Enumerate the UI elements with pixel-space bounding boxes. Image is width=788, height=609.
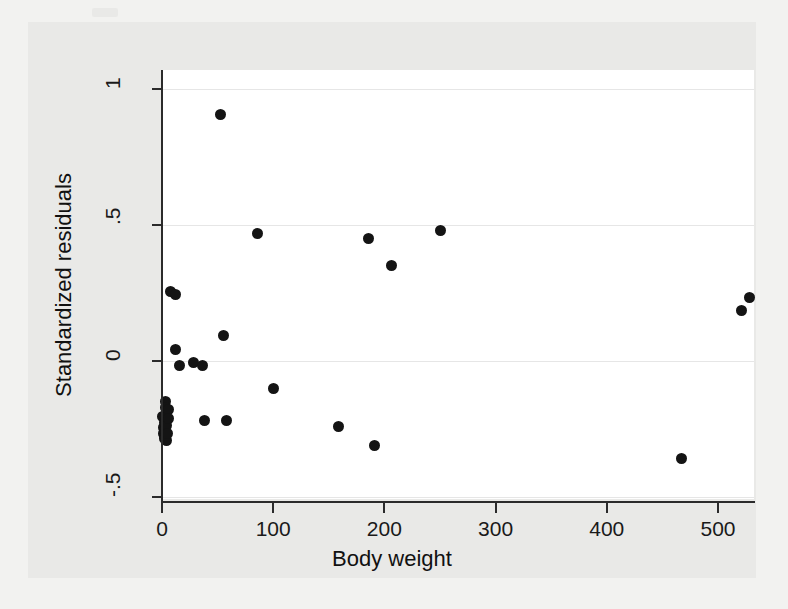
x-tick-1 <box>272 503 274 513</box>
data-point <box>386 260 397 271</box>
y-tick-1 <box>152 360 162 362</box>
gridline-y <box>162 89 754 90</box>
data-point <box>369 440 380 451</box>
data-point <box>174 360 185 371</box>
data-point <box>197 360 208 371</box>
data-point <box>163 413 174 424</box>
data-point <box>744 292 755 303</box>
data-point <box>170 344 181 355</box>
x-tick-label-0: 0 <box>122 517 202 541</box>
y-axis-line <box>161 70 163 502</box>
x-axis-label: Body weight <box>28 547 756 571</box>
y-tick-3 <box>152 88 162 90</box>
x-tick-4 <box>606 503 608 513</box>
x-axis-line <box>161 501 755 503</box>
gridline-y <box>162 361 754 362</box>
x-tick-label-1: 100 <box>233 517 313 541</box>
data-point <box>736 305 747 316</box>
x-tick-3 <box>495 503 497 513</box>
data-point <box>170 289 181 300</box>
scan-artifact <box>92 8 118 17</box>
data-point <box>268 383 279 394</box>
y-tick-2 <box>152 224 162 226</box>
data-point <box>218 330 229 341</box>
data-point <box>435 225 446 236</box>
gridline-y <box>162 225 754 226</box>
x-tick-label-5: 500 <box>678 517 758 541</box>
data-point <box>333 421 344 432</box>
x-tick-5 <box>717 503 719 513</box>
scanned-page: Standardized residuals Body weight -.50.… <box>0 0 788 609</box>
x-tick-label-2: 200 <box>344 517 424 541</box>
data-point <box>221 415 232 426</box>
x-tick-label-3: 300 <box>456 517 536 541</box>
data-point <box>215 109 226 120</box>
data-point <box>252 228 263 239</box>
gridline-y <box>162 497 754 498</box>
graph-region: Standardized residuals Body weight -.50.… <box>28 22 756 578</box>
x-tick-label-4: 400 <box>567 517 647 541</box>
data-point <box>363 233 374 244</box>
plot-area <box>162 70 754 499</box>
y-axis-label: Standardized residuals <box>53 173 75 397</box>
x-tick-0 <box>161 503 163 513</box>
data-point <box>676 453 687 464</box>
data-point <box>199 415 210 426</box>
x-tick-2 <box>383 503 385 513</box>
y-tick-0 <box>152 496 162 498</box>
